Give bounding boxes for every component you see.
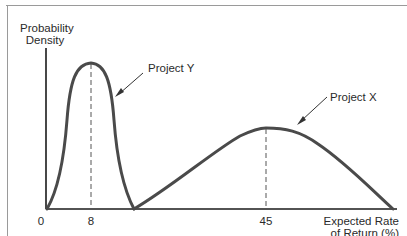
x-axis-label-line-2: of Return (%) [324, 227, 399, 236]
x-tick-45: 45 [260, 215, 273, 227]
x-tick-8: 8 [88, 215, 94, 227]
x-axis-label-line-1: Expected Rate [324, 215, 399, 227]
x-axis-label: Expected Rate of Return (%) [324, 215, 399, 236]
y-axis-label-line-1: Probability [20, 22, 70, 34]
y-axis-label-line-2: Density [20, 34, 70, 46]
project-x-arrow-icon [297, 97, 327, 125]
project-x-annotation: Project X [330, 91, 377, 103]
y-axis-label: Probability Density [20, 22, 70, 46]
x-tick-0: 0 [38, 215, 44, 227]
project-y-arrow-icon [115, 73, 143, 97]
project-y-annotation: Project Y [148, 62, 194, 74]
project-x-curve [134, 128, 393, 209]
